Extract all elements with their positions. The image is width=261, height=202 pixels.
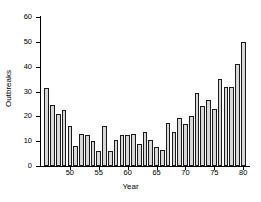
bar xyxy=(62,110,67,166)
bar xyxy=(143,132,148,166)
bar xyxy=(177,118,182,166)
bar xyxy=(172,132,177,166)
bar xyxy=(183,124,188,166)
bar xyxy=(148,140,153,166)
y-axis-title: Outbreaks xyxy=(4,59,13,119)
bar xyxy=(108,151,113,166)
bar xyxy=(56,114,61,166)
y-tick-label-50: 50 xyxy=(6,38,32,46)
bar-series xyxy=(41,17,249,166)
bar xyxy=(166,123,171,166)
bar xyxy=(241,42,246,166)
bar xyxy=(120,135,125,166)
bar xyxy=(96,151,101,166)
x-axis-title: Year xyxy=(0,182,261,191)
bar xyxy=(206,100,211,166)
bar xyxy=(85,135,90,166)
bar xyxy=(218,79,223,166)
bar xyxy=(200,106,205,166)
bar xyxy=(137,144,142,166)
bar xyxy=(102,126,107,166)
bar xyxy=(44,88,49,166)
bar xyxy=(125,135,130,166)
bar xyxy=(235,64,240,166)
x-tick-label-55: 55 xyxy=(89,169,109,177)
bar xyxy=(160,150,165,166)
x-tick-label-75: 75 xyxy=(204,169,224,177)
x-tick-label-80: 80 xyxy=(233,169,253,177)
bar xyxy=(212,109,217,166)
bar xyxy=(131,134,136,166)
x-tick-label-65: 65 xyxy=(147,169,167,177)
bar xyxy=(79,134,84,166)
x-tick-label-60: 60 xyxy=(118,169,138,177)
y-tick-label-0: 0 xyxy=(6,162,32,170)
x-axis-line xyxy=(40,166,250,167)
bar xyxy=(154,147,159,166)
bar xyxy=(224,87,229,166)
x-tick-label-70: 70 xyxy=(175,169,195,177)
bar xyxy=(68,126,73,166)
y-tick-label-60: 60 xyxy=(6,13,32,21)
plot-area xyxy=(41,17,249,166)
y-tick-0 xyxy=(36,166,41,167)
bar xyxy=(73,146,78,166)
bar xyxy=(229,87,234,166)
y-tick-label-10: 10 xyxy=(6,137,32,145)
bar xyxy=(50,105,55,166)
bar xyxy=(189,116,194,166)
outbreaks-by-year-chart: 0102030405060 50556065707580 Year Outbre… xyxy=(0,0,261,202)
x-tick-label-50: 50 xyxy=(60,169,80,177)
bar xyxy=(91,141,96,166)
bar xyxy=(114,140,119,166)
bar xyxy=(195,93,200,166)
